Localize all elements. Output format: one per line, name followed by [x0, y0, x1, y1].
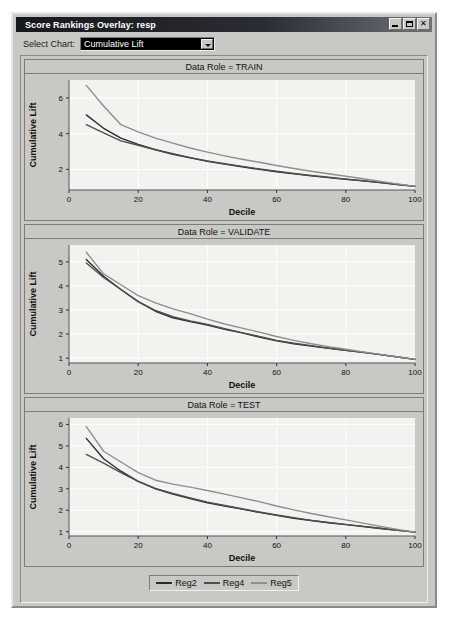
svg-text:40: 40 [203, 541, 212, 550]
svg-text:0: 0 [67, 368, 72, 377]
svg-text:Cumulative Lift: Cumulative Lift [28, 271, 38, 336]
svg-text:0: 0 [67, 195, 72, 204]
legend-label-reg5: Reg5 [270, 578, 292, 588]
chart-panel-validate: Data Role = VALIDATE 12345020406080100De… [24, 224, 424, 394]
legend-item-reg4[interactable]: Reg4 [204, 578, 245, 588]
svg-text:Cumulative Lift: Cumulative Lift [28, 102, 38, 167]
legend-swatch-reg2 [156, 582, 172, 584]
application-window: Score Rankings Overlay: resp ✕ Select Ch… [11, 12, 437, 608]
maximize-button[interactable] [403, 18, 416, 30]
svg-text:80: 80 [341, 541, 350, 550]
legend-swatch-reg4 [204, 582, 220, 584]
window-title: Score Rankings Overlay: resp [25, 20, 156, 30]
chart-stack: Data Role = TRAIN 246020406080100DecileC… [24, 59, 424, 599]
svg-text:100: 100 [408, 541, 422, 550]
minimize-button[interactable] [389, 18, 402, 30]
svg-text:1: 1 [59, 354, 64, 363]
chart-panel-test: Data Role = TEST 123456020406080100Decil… [24, 397, 424, 567]
svg-text:5: 5 [59, 258, 64, 267]
svg-text:Decile: Decile [229, 380, 256, 390]
chart-title-validate: Data Role = VALIDATE [25, 225, 423, 239]
svg-text:20: 20 [134, 368, 143, 377]
screenshot-root: Score Rankings Overlay: resp ✕ Select Ch… [0, 0, 449, 620]
svg-text:100: 100 [408, 368, 422, 377]
svg-text:80: 80 [341, 368, 350, 377]
chevron-down-icon[interactable] [201, 39, 213, 49]
svg-text:60: 60 [272, 368, 281, 377]
svg-text:60: 60 [272, 541, 281, 550]
svg-text:20: 20 [134, 195, 143, 204]
svg-text:Cumulative Lift: Cumulative Lift [28, 444, 38, 509]
plot-area-train: 246020406080100DecileCumulative Lift [25, 74, 423, 220]
close-icon: ✕ [418, 19, 429, 29]
legend: Reg2 Reg4 Reg5 [149, 575, 299, 591]
toolbar: Select Chart: Cumulative Lift [16, 34, 432, 53]
svg-text:4: 4 [59, 282, 64, 291]
svg-text:80: 80 [341, 195, 350, 204]
svg-text:60: 60 [272, 195, 281, 204]
select-chart-value: Cumulative Lift [84, 39, 144, 49]
legend-label-reg2: Reg2 [175, 578, 197, 588]
svg-text:4: 4 [59, 130, 64, 139]
plot-area-test: 123456020406080100DecileCumulative Lift [25, 412, 423, 566]
plot-area-validate: 12345020406080100DecileCumulative Lift [25, 239, 423, 393]
chart-svg: 12345020406080100DecileCumulative Lift [25, 239, 423, 393]
charts-content-panel: Data Role = TRAIN 246020406080100DecileC… [20, 55, 428, 603]
chart-svg: 123456020406080100DecileCumulative Lift [25, 412, 423, 566]
svg-text:40: 40 [203, 195, 212, 204]
legend-label-reg4: Reg4 [223, 578, 245, 588]
svg-text:1: 1 [59, 528, 64, 537]
svg-text:100: 100 [408, 195, 422, 204]
svg-text:0: 0 [67, 541, 72, 550]
svg-text:2: 2 [59, 330, 64, 339]
legend-swatch-reg5 [251, 582, 267, 584]
svg-text:2: 2 [59, 165, 64, 174]
chart-title-train: Data Role = TRAIN [25, 60, 423, 74]
svg-text:5: 5 [59, 442, 64, 451]
svg-text:Decile: Decile [229, 207, 256, 217]
window-titlebar: Score Rankings Overlay: resp ✕ [16, 17, 432, 32]
select-chart-dropdown[interactable]: Cumulative Lift [80, 37, 215, 51]
window-controls: ✕ [389, 18, 430, 30]
svg-text:3: 3 [59, 306, 64, 315]
svg-text:Decile: Decile [229, 553, 256, 563]
svg-text:3: 3 [59, 485, 64, 494]
svg-text:40: 40 [203, 368, 212, 377]
select-chart-label: Select Chart: [23, 39, 75, 49]
chart-panel-train: Data Role = TRAIN 246020406080100DecileC… [24, 59, 424, 221]
close-button[interactable]: ✕ [417, 18, 430, 30]
svg-text:6: 6 [59, 420, 64, 429]
svg-text:20: 20 [134, 541, 143, 550]
legend-item-reg2[interactable]: Reg2 [156, 578, 197, 588]
svg-text:4: 4 [59, 463, 64, 472]
legend-item-reg5[interactable]: Reg5 [251, 578, 292, 588]
chart-svg: 246020406080100DecileCumulative Lift [25, 74, 423, 220]
chart-title-test: Data Role = TEST [25, 398, 423, 412]
svg-text:6: 6 [59, 94, 64, 103]
svg-text:2: 2 [59, 506, 64, 515]
legend-row: Reg2 Reg4 Reg5 [24, 570, 424, 596]
